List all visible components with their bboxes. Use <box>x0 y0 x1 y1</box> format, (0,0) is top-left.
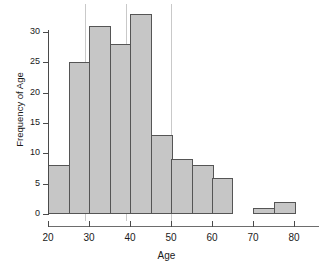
histogram-bar <box>171 159 193 214</box>
x-tick-label: 30 <box>74 232 104 243</box>
x-tick-mark <box>130 221 131 227</box>
x-tick-mark <box>253 221 254 227</box>
histogram-bar <box>253 208 275 214</box>
histogram-bar <box>130 14 152 214</box>
histogram-bar <box>48 165 70 214</box>
x-tick-mark <box>89 221 90 227</box>
x-tick-label: 20 <box>33 232 63 243</box>
y-axis-title: Frequency of Age <box>14 50 25 170</box>
y-tick-label: 0 <box>18 209 40 218</box>
y-tick-mark <box>43 153 49 154</box>
y-tick-mark <box>43 214 49 215</box>
y-tick-label: 5 <box>18 179 40 188</box>
y-tick-mark <box>43 123 49 124</box>
histogram-bar <box>274 202 296 214</box>
histogram-bar <box>212 178 233 214</box>
y-tick-mark <box>43 32 49 33</box>
histogram-bar <box>192 165 214 214</box>
histogram-chart: 051015202530 20304050607080 Age Frequenc… <box>0 0 333 272</box>
x-tick-label: 80 <box>279 232 309 243</box>
x-tick-mark <box>48 221 49 227</box>
x-tick-mark <box>212 221 213 227</box>
x-tick-label: 50 <box>156 232 186 243</box>
y-tick-mark <box>43 93 49 94</box>
x-axis-title: Age <box>0 250 333 261</box>
x-tick-mark <box>294 221 295 227</box>
y-tick-mark <box>43 184 49 185</box>
x-tick-label: 70 <box>238 232 268 243</box>
plot-area: 051015202530 20304050607080 Age Frequenc… <box>0 0 333 272</box>
histogram-bar <box>69 62 91 214</box>
y-tick-label: 30 <box>18 27 40 36</box>
histogram-bar <box>151 135 173 214</box>
x-tick-mark <box>171 221 172 227</box>
y-tick-mark <box>43 62 49 63</box>
histogram-bar <box>110 44 132 214</box>
x-tick-label: 60 <box>197 232 227 243</box>
histogram-bar <box>89 26 111 214</box>
x-tick-label: 40 <box>115 232 145 243</box>
